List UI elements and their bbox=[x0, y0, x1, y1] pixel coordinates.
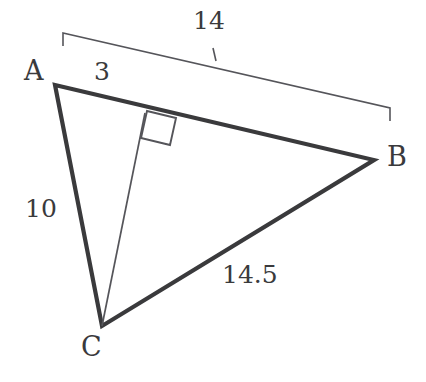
measure-label-ab-segment: 3 bbox=[94, 59, 110, 84]
right-angle-marker-icon bbox=[141, 111, 176, 145]
geometry-figure: A B C 14 3 10 14.5 bbox=[0, 0, 426, 382]
altitude-line bbox=[102, 113, 145, 326]
measure-bracket-14 bbox=[63, 33, 390, 121]
bracket-path bbox=[63, 33, 390, 121]
vertex-label-a: A bbox=[24, 57, 44, 84]
vertex-label-c: C bbox=[81, 333, 102, 360]
bracket-midpoint-tick bbox=[213, 48, 216, 61]
measure-label-ac-side: 10 bbox=[25, 196, 57, 221]
triangle-diagram-canvas bbox=[0, 0, 426, 382]
triangle-outline bbox=[55, 85, 374, 326]
measure-label-top-bracket: 14 bbox=[193, 8, 225, 33]
vertex-label-b: B bbox=[387, 143, 407, 170]
measure-label-cb-side: 14.5 bbox=[222, 262, 278, 287]
